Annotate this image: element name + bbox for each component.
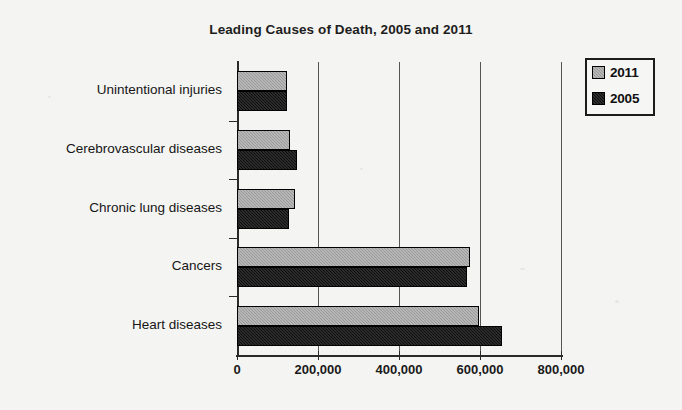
bar-2011-heart-diseases xyxy=(237,306,479,326)
chart-title: Leading Causes of Death, 2005 and 2011 xyxy=(0,22,682,37)
category-label-unintentional-injuries: Unintentional injuries xyxy=(12,82,222,97)
category-label-row: Cancers xyxy=(12,258,228,273)
category-label-row: Heart diseases xyxy=(12,317,228,332)
legend-item-2011: 2011 xyxy=(592,65,639,80)
x-axis-tick-label: 800,000 xyxy=(538,362,585,377)
chart-legend: 2011 2005 xyxy=(585,58,655,116)
bar-2005-cerebrovascular-diseases xyxy=(237,150,297,170)
y-axis-tick xyxy=(229,121,238,122)
category-label-row: Cerebrovascular diseases xyxy=(12,141,228,156)
bar-2011-cancers xyxy=(237,247,470,267)
x-axis-tick xyxy=(237,351,238,360)
bar-2005-cancers xyxy=(237,267,467,287)
category-label-heart-diseases: Heart diseases xyxy=(12,317,222,332)
category-label-chronic-lung-diseases: Chronic lung diseases xyxy=(12,200,222,215)
x-axis-tick xyxy=(561,351,562,360)
bar-chart: Leading Causes of Death, 2005 and 2011 2… xyxy=(0,0,682,410)
bar-2005-heart-diseases xyxy=(237,326,502,346)
bar-2005-chronic-lung-diseases xyxy=(237,209,289,229)
x-axis-tick-label: 0 xyxy=(233,362,240,377)
legend-swatch-2005 xyxy=(592,92,605,105)
legend-swatch-2011 xyxy=(592,66,605,79)
x-axis-tick-label: 400,000 xyxy=(376,362,423,377)
x-axis-tick xyxy=(399,351,400,360)
gridline xyxy=(480,62,481,355)
bar-2005-unintentional-injuries xyxy=(237,91,287,111)
paper-speck xyxy=(520,268,525,270)
paper-speck xyxy=(48,96,51,98)
category-label-row: Unintentional injuries xyxy=(12,82,228,97)
legend-label-2011: 2011 xyxy=(610,65,639,80)
x-axis-tick xyxy=(480,351,481,360)
x-axis-tick-label: 600,000 xyxy=(457,362,504,377)
bar-2011-cerebrovascular-diseases xyxy=(237,130,290,150)
legend-label-2005: 2005 xyxy=(610,91,639,106)
y-axis-tick xyxy=(229,179,238,180)
x-axis-tick-label: 200,000 xyxy=(295,362,342,377)
bar-2011-unintentional-injuries xyxy=(237,71,287,91)
y-axis-tick xyxy=(229,238,238,239)
category-label-cerebrovascular-diseases: Cerebrovascular diseases xyxy=(12,141,222,156)
paper-speck xyxy=(360,168,363,170)
paper-speck xyxy=(615,300,619,303)
bar-2011-chronic-lung-diseases xyxy=(237,189,295,209)
x-axis-tick xyxy=(318,351,319,360)
legend-item-2005: 2005 xyxy=(592,91,639,106)
y-axis-tick xyxy=(229,296,238,297)
category-label-row: Chronic lung diseases xyxy=(12,200,228,215)
category-label-cancers: Cancers xyxy=(12,258,222,273)
gridline xyxy=(561,62,562,355)
